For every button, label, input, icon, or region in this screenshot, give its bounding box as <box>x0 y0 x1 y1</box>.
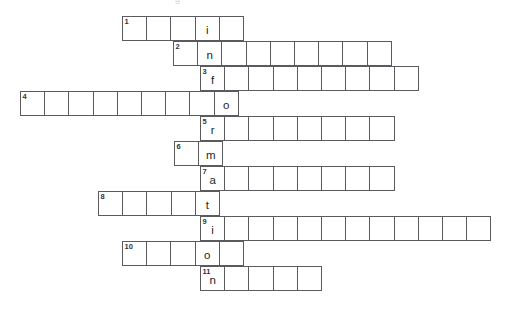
crossword-cell[interactable] <box>318 41 343 66</box>
clue-number: 8 <box>101 192 105 201</box>
clue-number: 10 <box>125 242 133 251</box>
clue-number: 4 <box>23 92 27 101</box>
crossword-cell[interactable] <box>321 166 346 191</box>
crossword-cell[interactable]: 8 <box>98 191 123 216</box>
crossword-cell[interactable] <box>224 66 249 91</box>
clue-number: 6 <box>177 142 181 151</box>
crossword-cell[interactable] <box>321 216 346 241</box>
crossword-cell[interactable] <box>224 166 249 191</box>
crossword-cell[interactable] <box>369 216 394 241</box>
crossword-cell[interactable] <box>369 166 394 191</box>
crossword-cell[interactable] <box>246 41 271 66</box>
crossword-cell[interactable] <box>221 41 246 66</box>
crossword-cell[interactable]: 10 <box>122 241 147 266</box>
crossword-cell[interactable] <box>146 191 171 216</box>
crossword-cell[interactable] <box>297 66 322 91</box>
spine-letter: n <box>201 274 224 286</box>
crossword-cell[interactable] <box>345 116 370 141</box>
spine-letter: n <box>198 49 221 61</box>
crossword-cell[interactable]: t <box>195 191 220 216</box>
crossword-cell[interactable] <box>146 241 171 266</box>
spine-letter: o <box>196 249 219 261</box>
crossword-cell[interactable] <box>248 266 273 291</box>
crossword-cell[interactable] <box>273 166 298 191</box>
crossword-cell[interactable]: i <box>195 16 220 41</box>
spine-letter: a <box>201 174 224 186</box>
crossword-cell[interactable]: 9i <box>200 216 225 241</box>
crossword-cell[interactable] <box>273 266 298 291</box>
crossword-cell[interactable] <box>171 191 196 216</box>
crossword-row-7: 7a <box>200 166 395 191</box>
crossword-cell[interactable] <box>270 41 295 66</box>
crossword-cell[interactable] <box>117 91 142 116</box>
crossword-cell[interactable]: m <box>198 141 223 166</box>
crossword-cell[interactable] <box>122 191 147 216</box>
crossword-cell[interactable] <box>345 66 370 91</box>
clue-number: 2 <box>176 42 180 51</box>
crossword-cell[interactable] <box>297 216 322 241</box>
crossword-row-6: 6m <box>174 141 223 166</box>
crossword-cell[interactable] <box>321 116 346 141</box>
crossword-cell[interactable] <box>165 91 190 116</box>
crossword-cell[interactable] <box>170 241 195 266</box>
crossword-cell[interactable]: o <box>214 91 239 116</box>
crossword-cell[interactable] <box>273 216 298 241</box>
crossword-cell[interactable] <box>224 116 249 141</box>
crossword-cell[interactable] <box>219 241 244 266</box>
crossword-cell[interactable] <box>224 266 249 291</box>
crossword-cell[interactable] <box>345 216 370 241</box>
spine-letter: o <box>215 99 238 111</box>
crossword-row-10: 10o <box>122 241 244 266</box>
crossword-row-5: 5r <box>200 116 395 141</box>
crossword-cell[interactable] <box>248 116 273 141</box>
crossword-cell[interactable] <box>189 91 214 116</box>
crossword-cell[interactable] <box>345 166 370 191</box>
spine-letter: f <box>201 74 224 86</box>
crossword-cell[interactable] <box>93 91 118 116</box>
crossword-cell[interactable] <box>442 216 467 241</box>
crossword-cell[interactable] <box>418 216 443 241</box>
crossword-cell[interactable] <box>68 91 93 116</box>
crossword-cell[interactable]: o <box>195 241 220 266</box>
crossword-cell[interactable] <box>297 116 322 141</box>
crossword-cell[interactable] <box>321 66 346 91</box>
crossword-row-11: 11n <box>200 266 322 291</box>
crossword-cell[interactable] <box>170 16 195 41</box>
crossword-cell[interactable] <box>44 91 69 116</box>
crossword-cell[interactable] <box>248 166 273 191</box>
crossword-cell[interactable] <box>297 166 322 191</box>
top-text-artifact: g <box>175 0 181 4</box>
spine-letter: i <box>201 224 224 236</box>
spine-letter: m <box>199 149 222 161</box>
crossword-cell[interactable] <box>141 91 166 116</box>
crossword-cell[interactable] <box>146 16 171 41</box>
crossword-cell[interactable] <box>394 66 419 91</box>
crossword-row-9: 9i <box>200 216 491 241</box>
crossword-cell[interactable]: 7a <box>200 166 225 191</box>
crossword-cell[interactable] <box>294 41 319 66</box>
crossword-cell[interactable]: 1 <box>122 16 147 41</box>
crossword-cell[interactable] <box>369 66 394 91</box>
crossword-cell[interactable] <box>369 116 394 141</box>
crossword-cell[interactable]: n <box>197 41 222 66</box>
crossword-cell[interactable] <box>394 216 419 241</box>
crossword-cell[interactable]: 6 <box>174 141 199 166</box>
crossword-cell[interactable] <box>224 216 249 241</box>
crossword-cell[interactable]: 11n <box>200 266 225 291</box>
crossword-cell[interactable] <box>342 41 367 66</box>
crossword-cell[interactable] <box>367 41 392 66</box>
crossword-cell[interactable] <box>273 66 298 91</box>
crossword-cell[interactable]: 5r <box>200 116 225 141</box>
clue-number: 1 <box>125 17 129 26</box>
crossword-cell[interactable]: 4 <box>20 91 45 116</box>
spine-letter: i <box>196 24 219 36</box>
crossword-cell[interactable] <box>297 266 322 291</box>
crossword-cell[interactable] <box>248 66 273 91</box>
crossword-row-1: 1i <box>122 16 244 41</box>
crossword-cell[interactable]: 2 <box>173 41 198 66</box>
crossword-cell[interactable]: 3f <box>200 66 225 91</box>
crossword-cell[interactable] <box>248 216 273 241</box>
crossword-cell[interactable] <box>219 16 244 41</box>
crossword-cell[interactable] <box>466 216 491 241</box>
crossword-cell[interactable] <box>273 116 298 141</box>
